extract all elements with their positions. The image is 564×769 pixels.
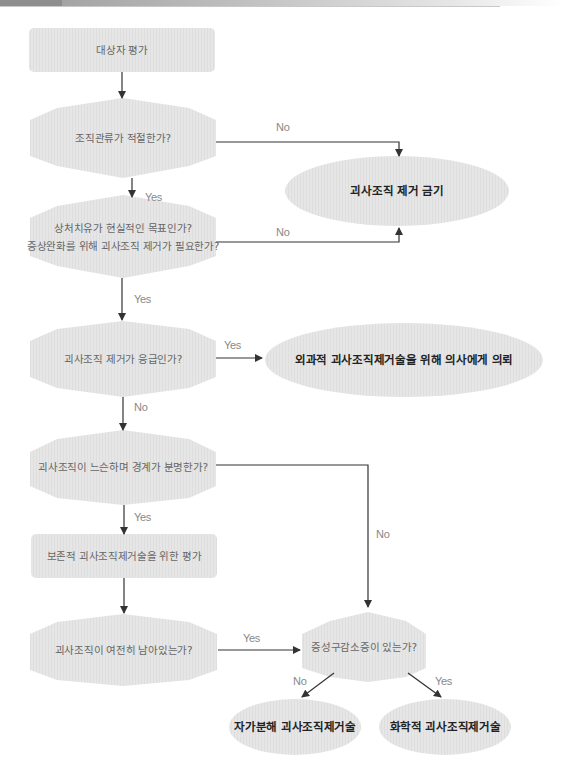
node-healing: 상처치유가 현실적인 목표인가? 증상완화를 위해 괴사조직 제거가 필요한가? <box>24 200 222 274</box>
node-loose: 괴사조직이 느슨하며 경계가 분명한가? <box>30 430 216 505</box>
node-remaining: 괴사조직이 여전히 남아있는가? <box>30 614 217 686</box>
node-contraindicated: 괴사조직 제거 금기 <box>285 156 509 226</box>
edge-label-infection-yes: Yes <box>435 675 452 687</box>
edge-label-urgent-no: No <box>134 401 147 413</box>
edge-label-remaining-yes: Yes <box>243 632 260 644</box>
node-chemical: 화학적 괴사조직제거술 <box>379 699 511 755</box>
node-healing-line1: 상처치유가 현실적인 목표인가? <box>54 219 191 237</box>
edge-loose-no <box>216 465 368 607</box>
node-conservative: 보존적 괴사조직제거술을 위한 평가 <box>31 534 217 578</box>
edge-perfusion-no <box>216 142 399 156</box>
edge-label-perfusion-yes: Yes <box>145 191 162 203</box>
node-assess: 대상자 평가 <box>29 28 215 72</box>
node-healing-line2: 증상완화를 위해 괴사조직 제거가 필요한가? <box>27 237 219 255</box>
node-infection: 증성구감소증이 있는가? <box>302 612 426 682</box>
node-autolytic: 자가분해 괴사조직제거술 <box>229 699 361 755</box>
node-perfusion: 조직관류가 적절한가? <box>30 98 216 178</box>
edge-label-urgent-yes: Yes <box>224 339 241 351</box>
edge-label-healing-yes: Yes <box>134 293 151 305</box>
edge-label-infection-no: No <box>293 675 306 687</box>
node-refer: 외과적 괴사조직제거술을 위해 의사에게 의뢰 <box>265 323 543 397</box>
edge-label-loose-yes: Yes <box>134 511 151 523</box>
edge-healing-no <box>216 228 399 242</box>
edge-label-perfusion-no: No <box>276 121 289 133</box>
node-urgent: 괴사조직 제거가 응급인가? <box>30 321 216 397</box>
edge-label-loose-no: No <box>376 528 389 540</box>
edge-label-healing-no: No <box>276 226 289 238</box>
